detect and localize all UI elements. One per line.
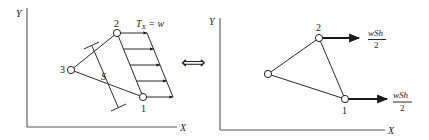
equivalence-double-arrow-icon: ⟺ xyxy=(181,52,205,72)
right-node-1 xyxy=(341,95,348,102)
right-node-3 xyxy=(264,70,271,77)
left-panel: Y X TX = w S 1 2 xyxy=(16,8,187,133)
left-node-2 xyxy=(113,29,120,36)
dimension-tick-bottom xyxy=(111,104,126,111)
right-panel: Y X wSh 2 wSh 2 1 2 xyxy=(209,16,412,136)
nodal-force-1: wSh 2 xyxy=(348,90,412,113)
dimension-tick-top xyxy=(84,42,99,49)
edge-2-1 xyxy=(319,38,345,99)
nodal-force-2: wSh 2 xyxy=(322,28,386,50)
right-node-1-label: 1 xyxy=(342,105,347,116)
left-node-2-label: 2 xyxy=(114,18,119,29)
equivalent-nodal-forces-diagram: Y X TX = w S 1 2 xyxy=(0,0,429,140)
force-2-denominator: 2 xyxy=(374,40,379,50)
traction-distribution: TX = w xyxy=(117,18,173,97)
force-1-denominator: 2 xyxy=(400,103,405,113)
dimension-label: S xyxy=(101,71,106,82)
left-node-1 xyxy=(139,93,146,100)
edge-3-1 xyxy=(268,74,345,99)
force-1-numerator: wSh xyxy=(393,90,409,100)
left-node-1-label: 1 xyxy=(141,103,146,114)
right-y-axis-label: Y xyxy=(209,16,216,27)
right-node-2-label: 2 xyxy=(316,22,321,33)
left-y-axis-label: Y xyxy=(16,8,23,19)
right-triangle-element xyxy=(268,38,345,99)
edge-3-2 xyxy=(268,38,319,74)
force-2-numerator: wSh xyxy=(368,28,384,38)
right-x-axis-label: X xyxy=(387,125,395,136)
right-node-2 xyxy=(315,34,322,41)
traction-label: TX = w xyxy=(136,18,165,31)
edge-3-1 xyxy=(71,70,143,97)
left-node-3-label: 3 xyxy=(60,64,65,75)
left-node-3 xyxy=(67,66,74,73)
left-x-axis-label: X xyxy=(179,122,187,133)
dimension-s: S xyxy=(84,42,126,111)
